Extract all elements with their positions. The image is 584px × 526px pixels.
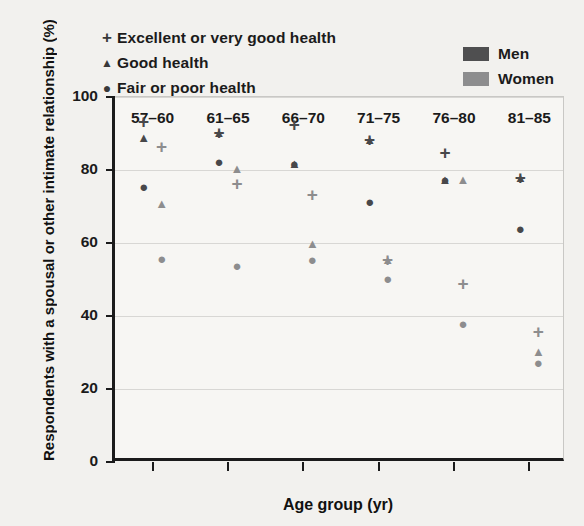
y-axis-tick (106, 242, 115, 244)
circle-icon: ● (97, 81, 117, 95)
data-point-circle-icon: ● (516, 221, 525, 236)
y-axis-tick (106, 388, 115, 390)
data-point-circle-icon: ● (308, 252, 317, 267)
gridline (115, 316, 563, 317)
data-point-triangle-icon: ▲ (457, 173, 470, 186)
data-point-triangle-icon: ▲ (363, 132, 376, 145)
data-point-plus-icon: + (533, 321, 544, 340)
legend-label-sex: Men (498, 45, 529, 63)
y-axis-label: 60 (58, 233, 98, 251)
y-axis-label: 40 (58, 306, 98, 324)
y-axis-tick (106, 169, 115, 171)
x-axis-title: Age group (yr) (112, 496, 564, 514)
legend-label-health: Fair or poor health (117, 79, 256, 97)
y-axis-tick (106, 96, 115, 98)
data-point-triangle-icon: ▲ (381, 253, 394, 266)
data-point-plus-icon: + (156, 137, 167, 156)
data-point-plus-icon: + (439, 142, 450, 161)
data-point-triangle-icon: ▲ (514, 171, 527, 184)
data-point-circle-icon: ● (214, 153, 223, 168)
data-point-circle-icon: ● (458, 316, 467, 331)
y-axis-label: 20 (58, 379, 98, 397)
sex-legend: MenWomen (463, 41, 554, 91)
y-axis-label: 80 (58, 160, 98, 178)
legend-item-health: ▲Good health (97, 50, 336, 75)
x-axis-tick (152, 462, 154, 471)
y-axis-label: 0 (58, 452, 98, 470)
x-axis-tick (378, 462, 380, 471)
data-point-circle-icon: ● (365, 194, 374, 209)
y-axis-tick (106, 461, 115, 463)
data-point-triangle-icon: ▲ (231, 162, 244, 175)
y-axis-tick (106, 315, 115, 317)
data-point-plus-icon: + (457, 274, 468, 293)
legend-label-sex: Women (498, 70, 554, 88)
plus-icon: + (97, 29, 117, 46)
gridline (115, 97, 563, 98)
data-point-triangle-icon: ▲ (155, 196, 168, 209)
legend-item-sex: Men (463, 41, 554, 66)
x-axis-tick (453, 462, 455, 471)
data-point-plus-icon: + (138, 111, 149, 130)
legend-label-health: Good health (117, 54, 209, 72)
data-point-plus-icon: + (289, 115, 300, 134)
plot-area: 57–6061–6566–7071–7576–8081–85++++++▲▲▲▲… (112, 96, 564, 461)
gridline (115, 243, 563, 244)
data-point-circle-icon: ● (157, 250, 166, 265)
gridline (115, 389, 563, 390)
triangle-icon: ▲ (97, 57, 117, 69)
health-legend: +Excellent or very good health▲Good heal… (97, 25, 336, 100)
data-point-circle-icon: ● (383, 270, 392, 285)
data-point-plus-icon: + (231, 173, 242, 192)
legend-item-health: +Excellent or very good health (97, 25, 336, 50)
data-point-triangle-icon: ▲ (306, 237, 319, 250)
data-point-circle-icon: ● (534, 354, 543, 369)
data-point-triangle-icon: ▲ (137, 131, 150, 144)
data-point-plus-icon: + (307, 184, 318, 203)
data-point-circle-icon: ● (139, 179, 148, 194)
data-point-circle-icon: ● (290, 155, 299, 170)
legend-item-sex: Women (463, 66, 554, 91)
y-axis-title: Respondents with a spousal or other inti… (40, 96, 57, 461)
legend-swatch-icon (463, 47, 489, 61)
gridline (115, 170, 563, 171)
x-axis-label: 81–85 (484, 109, 574, 127)
x-axis-tick (528, 462, 530, 471)
chart-figure: +Excellent or very good health▲Good heal… (0, 0, 584, 526)
y-axis-label: 100 (58, 87, 98, 105)
data-point-triangle-icon: ▲ (213, 125, 226, 138)
data-point-circle-icon: ● (232, 257, 241, 272)
legend-label-health: Excellent or very good health (117, 29, 336, 47)
data-point-circle-icon: ● (440, 172, 449, 187)
legend-swatch-icon (463, 72, 489, 86)
x-axis-tick (302, 462, 304, 471)
x-axis-tick (227, 462, 229, 471)
